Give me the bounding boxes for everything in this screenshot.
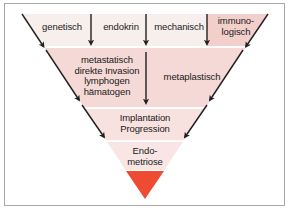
tip-triangle-endometriose [126,171,164,199]
stage-line-progression: Progression [120,123,170,134]
stage-line-metastatisch: metastatisch [81,54,133,65]
stage-line-haematogen: hämatogen [84,86,131,97]
input-label-endokrin: endokrin [96,22,146,33]
figure-root: genetisch endokrin mechanisch immuno- lo… [0,0,290,211]
input-label-mechanisch: mechanisch [150,22,208,33]
input-label-immunologisch-line2: logisch [222,26,251,37]
stage-label-implantation-progression: Implantation Progression [106,113,184,134]
stage-label-endometriose: Endo- metriose [113,146,177,167]
stage-label-mechanismen-links: metastatisch direkte Invasion lymphogen … [63,55,151,97]
input-label-genetisch: genetisch [34,22,90,33]
stage-line-direkte-invasion: direkte Invasion [75,65,140,76]
stage-label-metaplastisch: metaplastisch [154,72,230,83]
input-label-immunologisch-line1: immuno- [218,15,254,26]
stage-line-lymphogen: lymphogen [84,75,130,86]
input-label-immunologisch: immuno- logisch [211,16,261,37]
stage-line-metriose: metriose [127,156,163,167]
stage-line-endo: Endo- [133,145,158,156]
stage-line-implantation: Implantation [120,112,171,123]
